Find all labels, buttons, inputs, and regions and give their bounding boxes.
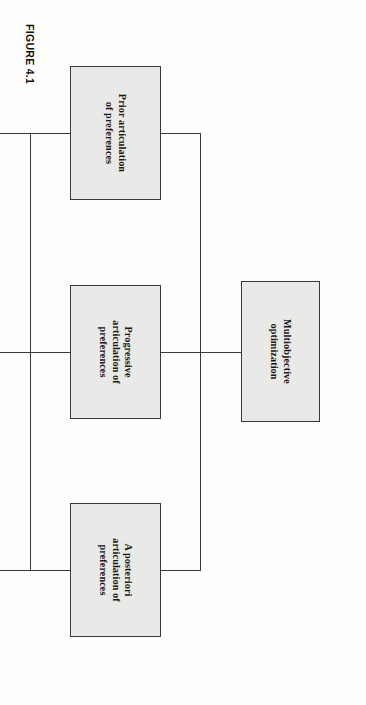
figure-caption: FIGURE 4.1 [24, 24, 36, 84]
node-multiobjective-optimization[interactable]: Multiobjectiveoptimization [241, 281, 320, 422]
edge-bus-to-mixed [0, 352, 32, 353]
edge-bus-to-continuous [0, 133, 32, 134]
edge-prior-stem [31, 133, 70, 134]
node-label: Progressivearticulation ofpreferences [97, 316, 134, 387]
node-posteriori-articulation[interactable]: A posterioriarticulation ofpreferences [70, 503, 161, 637]
edge-progressive-stem [31, 352, 70, 353]
node-prior-articulation[interactable]: Prior articulationof preferences [70, 66, 161, 200]
edge-bus-to-discrete [0, 570, 32, 571]
edge-bus-to-progressive [161, 352, 202, 353]
edge-root-stem [201, 352, 241, 353]
taxonomy-flowchart: Multiobjectiveoptimization Prior articul… [0, 0, 366, 705]
node-label: Prior articulationof preferences [103, 90, 128, 176]
edge-posteriori-stem [31, 570, 70, 571]
edge-bus-to-prior [161, 133, 202, 134]
book-page: Optimization A common approach to solvin… [0, 0, 366, 705]
edge-bus-to-posteriori [161, 570, 202, 571]
node-progressive-articulation[interactable]: Progressivearticulation ofpreferences [70, 285, 161, 419]
node-label: Multiobjectiveoptimization [268, 315, 293, 388]
node-label: A posterioriarticulation ofpreferences [97, 534, 134, 605]
